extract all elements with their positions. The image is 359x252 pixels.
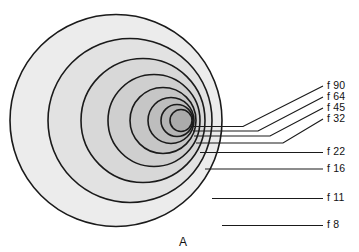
- ring-fill-group: [10, 15, 222, 227]
- contour-label-45: f 45: [327, 101, 345, 113]
- contour-label-16: f 16: [327, 162, 345, 174]
- figure-panel-a: f 8f 11f 16f 22f 32f 45f 64f 90 A: [0, 0, 359, 252]
- contour-label-8: f 8: [327, 218, 339, 230]
- contour-label-32: f 32: [327, 112, 345, 124]
- contour-label-11: f 11: [327, 191, 345, 203]
- contour-label-64: f 64: [327, 90, 345, 102]
- concentric-contour-diagram: f 8f 11f 16f 22f 32f 45f 64f 90 A: [0, 0, 359, 252]
- contour-label-90: f 90: [327, 79, 345, 91]
- contour-label-22: f 22: [327, 145, 345, 157]
- panel-letter: A: [179, 235, 187, 249]
